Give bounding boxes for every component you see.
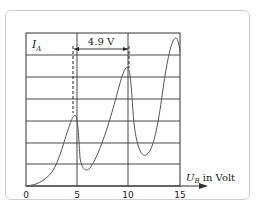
dimension-arrow-right-icon bbox=[123, 47, 128, 51]
dimension-markers bbox=[73, 46, 129, 113]
x-axis-label: UB in Volt bbox=[186, 172, 235, 185]
plot-frame bbox=[26, 33, 180, 186]
horizontal-gridlines bbox=[26, 55, 180, 164]
dimension-label: 4.9 V bbox=[88, 36, 115, 47]
x-tick-15: 15 bbox=[174, 190, 185, 200]
dimension-arrow-left-icon bbox=[74, 47, 79, 51]
franck-hertz-chart: 0 5 10 15 IA 4.9 V UB in Volt bbox=[0, 0, 257, 211]
y-axis-label: IA bbox=[31, 38, 41, 53]
x-tick-0: 0 bbox=[23, 190, 29, 200]
x-axis-arrow-icon bbox=[199, 183, 208, 189]
x-tick-10: 10 bbox=[122, 190, 134, 200]
vertical-gridlines bbox=[77, 33, 128, 186]
x-tick-5: 5 bbox=[74, 190, 80, 200]
